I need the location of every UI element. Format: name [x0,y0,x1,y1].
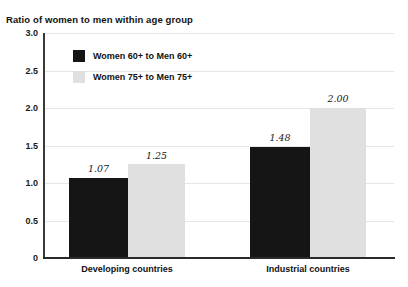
legend-label-60plus: Women 60+ to Men 60+ [93,51,192,61]
bar-industrial-60plus [250,147,310,258]
bar-value-developing-75plus: 1.25 [146,150,167,161]
bar-developing-60plus [69,178,128,258]
legend-swatch-icon [73,50,85,62]
legend-swatch-icon [73,71,85,83]
y-tick-label: 2.5 [4,66,38,76]
chart-legend: Women 60+ to Men 60+ Women 75+ to Men 75… [73,47,192,89]
bar-developing-75plus [128,164,185,258]
bar-value-industrial-60plus: 1.48 [269,132,290,143]
legend-label-75plus: Women 75+ to Men 75+ [93,72,192,82]
y-tick-label: 1.5 [4,141,38,151]
bar-value-developing-60plus: 1.07 [88,163,109,174]
bar-value-industrial-75plus: 2.00 [327,93,348,104]
bar-chart: Ratio of women to men within age group 1… [0,0,408,287]
bar-industrial-75plus [310,108,366,258]
y-tick-label: 1.0 [4,178,38,188]
gridline [44,33,394,34]
chart-title: Ratio of women to men within age group [6,14,193,25]
y-axis-ticks: 3.0 2.5 2.0 1.5 1.0 0.5 0 [0,33,38,258]
y-axis-line [43,33,45,259]
x-category-label-industrial: Industrial countries [266,264,350,274]
y-tick-label: 3.0 [4,28,38,38]
x-axis-line [43,257,395,259]
legend-item-75plus: Women 75+ to Men 75+ [73,68,192,85]
x-category-label-developing: Developing countries [81,264,173,274]
y-tick-label: 0 [4,253,38,263]
y-tick-label: 0.5 [4,216,38,226]
legend-item-60plus: Women 60+ to Men 60+ [73,47,192,64]
y-tick-label: 2.0 [4,103,38,113]
